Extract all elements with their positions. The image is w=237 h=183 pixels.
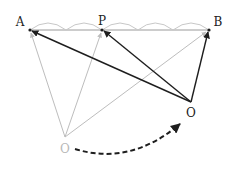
arc-5 [173, 23, 209, 30]
diagram-canvas [0, 0, 237, 183]
vector-O-P [104, 31, 191, 102]
arc-1 [30, 23, 66, 30]
label-b: B [214, 16, 223, 28]
dark-vectors [32, 31, 208, 102]
point-b-dot [207, 28, 210, 31]
division-arcs [30, 23, 209, 30]
arc-3 [102, 23, 138, 30]
faded-vectors [31, 32, 206, 137]
origin-shift-arrow [75, 124, 180, 154]
vector-oldO-A [31, 33, 65, 137]
arc-4 [138, 23, 173, 30]
vector-diagram: A P B O O [0, 0, 237, 183]
label-o-old: O [60, 143, 70, 155]
arc-2 [66, 23, 102, 30]
vector-O-B [191, 32, 208, 102]
point-a-dot [28, 28, 31, 31]
vector-oldO-B [65, 32, 206, 137]
vector-O-A [32, 31, 191, 102]
label-a: A [16, 16, 25, 28]
label-o-new: O [186, 107, 196, 119]
label-p: P [98, 15, 106, 27]
point-p-dot [100, 28, 103, 31]
